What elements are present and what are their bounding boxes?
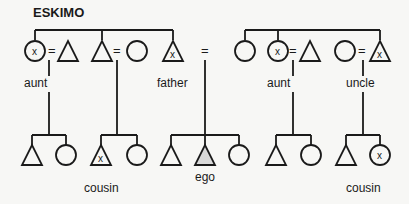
paternal-sibling-line [35, 30, 173, 40]
female-child-2 [127, 145, 147, 165]
label-father: father [157, 76, 188, 90]
label-uncle: uncle [346, 76, 375, 90]
male-child-4 [266, 145, 286, 165]
x-mark: x [98, 153, 103, 164]
sibling-line-5 [346, 135, 380, 145]
label-cousin-right: cousin [346, 181, 381, 195]
male-aunt-spouse [58, 41, 78, 61]
label-cousin-left: cousin [84, 181, 119, 195]
male-child-1 [22, 145, 42, 165]
marriage-sign: = [113, 43, 121, 58]
label-aunt-right: aunt [267, 76, 291, 90]
sibling-line-1 [32, 135, 66, 145]
x-mark: x [275, 46, 280, 57]
female-mother [235, 41, 255, 61]
marriage-sign: = [48, 43, 56, 58]
marriage-sign: = [289, 43, 297, 58]
female-child-1 [56, 145, 76, 165]
sibling-line-2 [101, 135, 137, 145]
female-sister [229, 145, 249, 165]
female-child-4 [301, 145, 321, 165]
x-mark: x [170, 49, 175, 60]
male-maternal-aunt-spouse [300, 41, 320, 61]
female-uncle-wife [335, 41, 355, 61]
label-ego: ego [195, 170, 215, 184]
male-child-5 [336, 145, 356, 165]
male-ego [195, 145, 215, 165]
male-brother [161, 145, 181, 165]
diagram-title: ESKIMO [33, 5, 84, 20]
kinship-diagram: ESKIMO = = = = = x x x x x x aunt father… [0, 0, 409, 204]
female-uncle-spouse [127, 41, 147, 61]
x-mark: x [377, 49, 382, 60]
maternal-sibling-line [245, 30, 380, 40]
sibling-line-4 [276, 135, 311, 145]
x-mark: x [32, 46, 37, 57]
marriage-sign: = [358, 43, 366, 58]
marriage-sign: = [201, 43, 209, 58]
male-paternal-uncle [92, 41, 112, 61]
x-mark: x [377, 150, 382, 161]
label-aunt-left: aunt [24, 76, 48, 90]
